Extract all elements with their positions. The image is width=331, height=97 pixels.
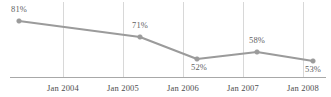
data-point-markers <box>17 19 316 64</box>
data-value-label: 58% <box>249 35 265 45</box>
x-axis-tick-label: Jan 2004 <box>47 83 80 93</box>
data-point-marker <box>255 50 260 55</box>
x-axis-tick-labels: Jan 2004Jan 2005Jan 2006Jan 2007Jan 2008 <box>47 83 319 93</box>
data-value-label: 71% <box>132 20 148 30</box>
x-axis-tick-label: Jan 2008 <box>287 83 319 93</box>
data-point-marker <box>195 57 200 62</box>
gridlines <box>63 2 303 77</box>
data-value-label: 53% <box>305 64 321 74</box>
data-point-marker <box>311 59 316 64</box>
chart-canvas: 81%71%52%58%53% Jan 2004Jan 2005Jan 2006… <box>0 0 331 97</box>
data-point-marker <box>17 19 22 24</box>
data-point-marker <box>138 35 143 40</box>
x-axis-tick-label: Jan 2007 <box>227 83 259 93</box>
data-value-label: 52% <box>191 62 207 72</box>
x-axis-tick-label: Jan 2005 <box>107 83 139 93</box>
x-axis-tick-label: Jan 2006 <box>167 83 199 93</box>
line-chart: 81%71%52%58%53% Jan 2004Jan 2005Jan 2006… <box>0 0 331 97</box>
data-value-label: 81% <box>11 4 27 14</box>
data-value-labels: 81%71%52%58%53% <box>11 4 321 74</box>
